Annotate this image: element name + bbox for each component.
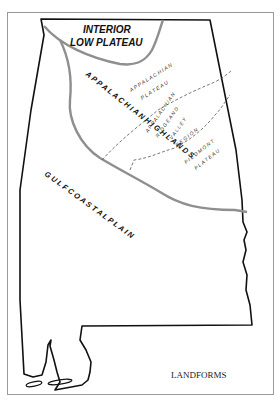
- label-gulf-coastal-plain: G U L F C O A S T A L P L A I N: [43, 169, 136, 240]
- ridge-piedmont-boundary: [130, 95, 230, 170]
- island-left: [26, 380, 43, 388]
- label-low-plateau: LOW PLATEAU: [70, 37, 143, 48]
- map-title: LANDFORMS: [171, 370, 227, 380]
- alabama-landforms-map: INTERIOR LOW PLATEAU A P P A L A C H I A…: [0, 0, 280, 405]
- label-interior: INTERIOR: [83, 24, 132, 35]
- state-outline: [20, 19, 252, 390]
